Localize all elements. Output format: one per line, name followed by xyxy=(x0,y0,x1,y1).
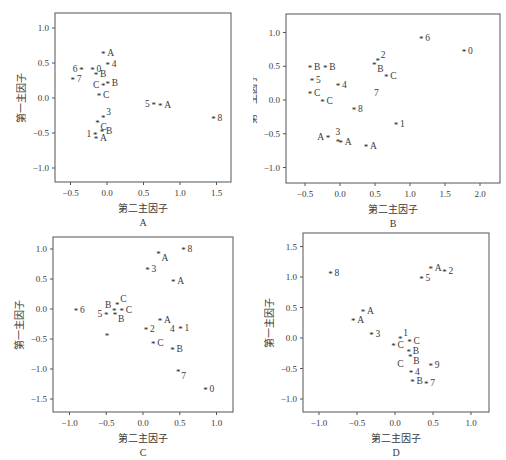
y-tick-label: 0.5 xyxy=(36,274,48,284)
point-label: A xyxy=(367,306,374,316)
data-point: *B xyxy=(323,62,336,73)
x-axis-title: 第二主因子 xyxy=(118,432,168,444)
data-point: *8 xyxy=(181,244,192,255)
point-label: 7 xyxy=(430,378,435,388)
asterisk-marker-icon: * xyxy=(308,89,313,99)
x-tick-label: −0.5 xyxy=(98,418,115,428)
asterisk-marker-icon: * xyxy=(94,134,99,144)
data-point: *6 xyxy=(419,33,430,44)
point-label: B xyxy=(118,314,124,324)
data-point: *0 xyxy=(462,46,473,57)
data-point: 4 xyxy=(170,324,175,334)
asterisk-marker-icon: * xyxy=(105,331,110,341)
x-tick-label: 0.5 xyxy=(138,188,150,198)
data-point: *8 xyxy=(211,113,222,124)
asterisk-marker-icon: * xyxy=(336,81,341,91)
point-label: 2 xyxy=(150,324,155,334)
x-tick-label: −0.5 xyxy=(297,189,314,199)
asterisk-marker-icon: * xyxy=(352,105,357,115)
point-label: 8 xyxy=(334,268,339,278)
data-point: *A xyxy=(364,141,377,152)
y-tick-label: −0.5 xyxy=(31,334,48,344)
point-label: C xyxy=(120,294,126,304)
y-tick-label: 1.0 xyxy=(38,23,50,33)
y-tick-label: −1.0 xyxy=(31,364,48,374)
point-label: 6 xyxy=(80,305,85,315)
point-label: A xyxy=(107,48,114,58)
point-label: 4 xyxy=(112,59,117,69)
y-tick-label: 0.5 xyxy=(286,303,298,313)
y-axis-title: 第一主因子 xyxy=(13,300,25,350)
asterisk-marker-icon: * xyxy=(394,120,399,130)
data-point: *C xyxy=(151,338,164,349)
asterisk-marker-icon: * xyxy=(156,249,161,259)
point-label: B xyxy=(112,78,118,88)
data-point: *A xyxy=(317,132,331,143)
data-point: *5 xyxy=(310,75,321,86)
asterisk-marker-icon: * xyxy=(105,60,110,70)
point-label: 6 xyxy=(425,33,430,43)
scatter-plot-b: −0.50.00.51.01.52.01.00.50.0−0.5−1.0第二主因… xyxy=(253,0,506,230)
point-label: B xyxy=(105,300,111,310)
y-axis-title: 第一主因子 xyxy=(253,74,258,124)
asterisk-marker-icon: * xyxy=(391,341,396,351)
asterisk-marker-icon: * xyxy=(94,70,99,80)
data-point: 7 xyxy=(374,88,379,98)
asterisk-marker-icon: * xyxy=(308,63,313,73)
x-axis-title: 第二主因子 xyxy=(118,202,168,214)
asterisk-marker-icon: * xyxy=(105,79,110,89)
data-point: *3 xyxy=(101,107,111,123)
point-label: C xyxy=(93,80,99,90)
point-label: C xyxy=(327,96,333,106)
y-tick-label: 0.5 xyxy=(269,61,281,71)
data-point: *C xyxy=(384,71,397,82)
data-point: *6 xyxy=(74,305,85,316)
data-point: *9 xyxy=(428,360,439,371)
point-label: 4 xyxy=(342,80,347,90)
data-point: *C xyxy=(391,340,404,351)
asterisk-marker-icon: * xyxy=(328,269,333,279)
asterisk-marker-icon: * xyxy=(323,63,328,73)
point-label: B xyxy=(100,69,106,79)
y-tick-label: 1.0 xyxy=(286,272,298,282)
scatter-panel-b: −0.50.00.51.01.52.01.00.50.0−0.5−1.0第二主因… xyxy=(253,0,506,230)
data-point: *8 xyxy=(352,104,363,115)
data-point: *5 xyxy=(145,99,157,110)
asterisk-marker-icon: * xyxy=(410,377,415,387)
point-label: A xyxy=(370,141,377,151)
point-label: 6 xyxy=(73,64,78,74)
y-tick-label: −1.0 xyxy=(264,163,281,173)
asterisk-marker-icon: * xyxy=(151,100,156,110)
data-point: *A xyxy=(156,249,168,263)
panel-caption: A xyxy=(139,217,147,228)
point-label: A xyxy=(317,132,324,142)
point-label: C xyxy=(103,90,109,100)
point-label: 7 xyxy=(374,88,379,98)
point-label: C xyxy=(413,336,419,346)
data-point: *7 xyxy=(176,367,186,381)
asterisk-marker-icon: * xyxy=(351,316,356,326)
data-point: *A xyxy=(94,133,107,144)
point-label: 4 xyxy=(170,324,175,334)
point-label: C xyxy=(157,338,163,348)
data-point: *A xyxy=(101,48,114,59)
asterisk-marker-icon: * xyxy=(170,345,175,355)
y-tick-label: 1.0 xyxy=(36,244,48,254)
data-point: *A xyxy=(351,315,364,326)
data-point: *1 xyxy=(178,323,189,334)
asterisk-marker-icon: * xyxy=(424,379,429,389)
asterisk-marker-icon: * xyxy=(442,267,447,277)
point-label: A xyxy=(177,276,184,286)
data-point: *C xyxy=(407,336,420,347)
point-label: C xyxy=(390,71,396,81)
data-point: *C xyxy=(97,90,110,101)
plot-frame xyxy=(55,13,231,182)
point-label: 3 xyxy=(106,107,111,117)
data-point: * xyxy=(105,331,110,341)
point-label: C xyxy=(397,359,403,369)
asterisk-marker-icon: * xyxy=(338,138,343,148)
point-label: 1 xyxy=(400,119,405,129)
scatter-plot-a: −0.50.00.51.01.51.00.50.0−0.5−1.0第二主因子第一… xyxy=(0,0,253,230)
asterisk-marker-icon: * xyxy=(369,330,374,340)
asterisk-marker-icon: * xyxy=(181,245,186,255)
